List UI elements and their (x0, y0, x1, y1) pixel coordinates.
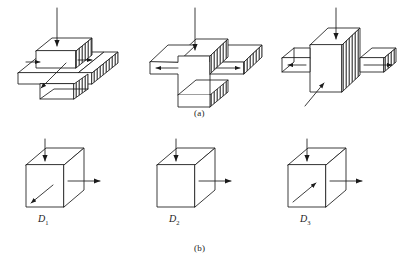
block-front-face (36, 51, 76, 68)
cube-d3-label: D3 (300, 213, 310, 226)
cube-d2 (157, 139, 231, 207)
cube-d1 (26, 139, 100, 207)
slab-with-raised-block (18, 8, 118, 99)
cube-d3-label-subscript: 3 (307, 219, 310, 226)
cube-d3-front-face (288, 165, 326, 207)
panel-b-caption: (b) (194, 243, 205, 253)
cross-bottom-stub-hatched-face (210, 80, 228, 107)
cube-with-two-arms (282, 8, 396, 106)
cross-front-face (150, 56, 244, 95)
cube-d2-front-face (157, 165, 195, 207)
panel-a-caption: (a) (194, 108, 205, 118)
cube-d3 (288, 139, 362, 207)
figure-root: (a) (b) D1 D2 D3 (0, 0, 404, 264)
cube3-left-arm-top-face (282, 48, 310, 58)
figure-canvas (0, 0, 404, 264)
cube-d1-label-subscript: 1 (45, 219, 48, 226)
cube-d1-front-face (26, 165, 64, 207)
cube3-front-face (310, 45, 342, 92)
cube-d1-label: D1 (38, 213, 48, 226)
cross-shaped-solid (150, 8, 262, 107)
cube-d2-label: D2 (169, 213, 179, 226)
cross-bottom-stub-front (178, 95, 210, 107)
cube-d2-label-subscript: 2 (176, 219, 179, 226)
pedestal-front-face (40, 84, 74, 99)
